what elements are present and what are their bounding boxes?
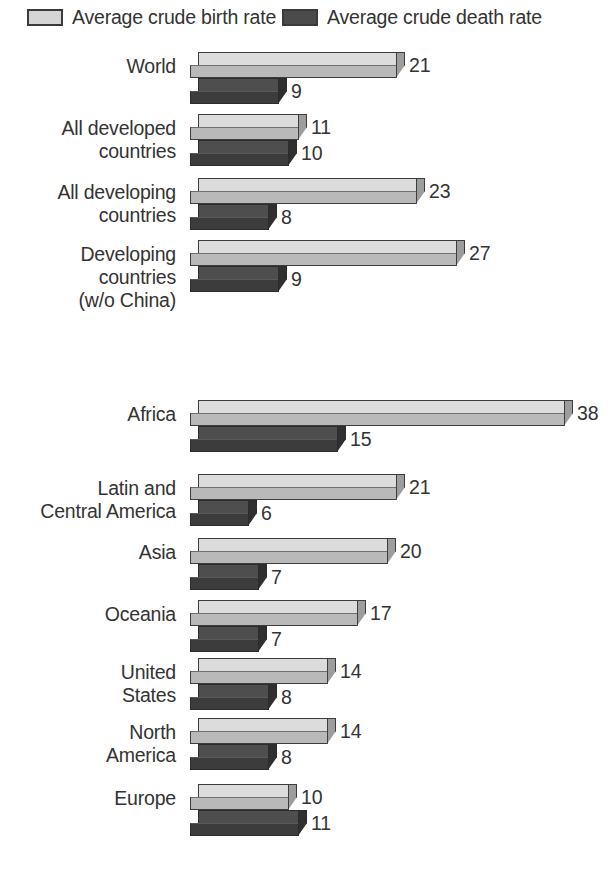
bar-top-face [198, 810, 307, 823]
legend-label-birth: Average crude birth rate [72, 6, 276, 29]
category-label: Europe [0, 787, 176, 810]
bar-birth-rate [190, 400, 573, 426]
bar-front-face [190, 413, 565, 426]
bar-value-death: 6 [261, 502, 272, 525]
chart-legend: Average crude birth rate Average crude d… [0, 6, 610, 34]
bar-end-cap [288, 784, 297, 810]
legend-swatch-birth-icon [27, 9, 63, 26]
category-label-line: Latin and [0, 477, 176, 500]
bar-front-face [190, 279, 279, 292]
bar-front-face [190, 639, 259, 652]
bar-end-cap [456, 240, 465, 266]
category-label-line: America [0, 744, 176, 767]
bar-top-face [198, 658, 336, 671]
category-label: All developedcountries [0, 117, 176, 163]
bar-top-face [198, 400, 573, 413]
bar-end-cap [396, 474, 405, 500]
category-label-line: States [0, 684, 176, 707]
bar-value-birth: 10 [301, 786, 322, 809]
category-label-line: All developing [0, 181, 176, 204]
bar-front-face [190, 253, 457, 266]
category-label: Latin andCentral America [0, 477, 176, 523]
bar-top-face [198, 684, 277, 697]
bar-top-face [198, 538, 396, 551]
category-label: Oceania [0, 603, 176, 626]
bar-death-rate [190, 564, 267, 590]
bar-front-face [190, 757, 269, 770]
bar-value-birth: 38 [577, 402, 598, 425]
bar-death-rate [190, 204, 277, 230]
category-label-line: countries [0, 140, 176, 163]
category-label-line: Africa [0, 403, 176, 426]
bar-end-cap [288, 140, 297, 166]
bar-front-face [190, 91, 279, 104]
bar-top-face [198, 140, 297, 153]
category-label-line: (w/o China) [0, 289, 176, 312]
bar-value-birth: 14 [340, 720, 361, 743]
bar-end-cap [327, 658, 336, 684]
bar-end-cap [268, 744, 277, 770]
bar-death-rate [190, 426, 346, 452]
bar-front-face [190, 191, 417, 204]
bar-top-face [198, 240, 465, 253]
bar-top-face [198, 744, 277, 757]
bar-top-face [198, 78, 287, 91]
bar-end-cap [357, 600, 366, 626]
bar-top-face [198, 564, 267, 577]
category-label: UnitedStates [0, 661, 176, 707]
bar-value-death: 8 [281, 746, 292, 769]
bar-value-death: 7 [271, 566, 282, 589]
bar-front-face [190, 487, 397, 500]
bar-value-birth: 21 [409, 54, 430, 77]
bar-value-death: 10 [301, 142, 322, 165]
bar-top-face [198, 626, 267, 639]
bar-death-rate [190, 500, 257, 526]
bar-value-death: 8 [281, 686, 292, 709]
bar-end-cap [298, 810, 307, 836]
bar-end-cap [327, 718, 336, 744]
category-label: Asia [0, 541, 176, 564]
bar-death-rate [190, 810, 307, 836]
category-label-line: countries [0, 204, 176, 227]
category-label: NorthAmerica [0, 721, 176, 767]
bar-death-rate [190, 744, 277, 770]
bar-value-birth: 17 [370, 602, 391, 625]
bar-front-face [190, 671, 328, 684]
legend-item-birth-rate: Average crude birth rate [27, 6, 276, 29]
bar-death-rate [190, 684, 277, 710]
bar-value-birth: 27 [469, 242, 490, 265]
bar-end-cap [258, 564, 267, 590]
bar-top-face [198, 114, 307, 127]
bar-end-cap [248, 500, 257, 526]
bar-front-face [190, 65, 397, 78]
bar-value-death: 15 [350, 428, 371, 451]
bar-front-face [190, 731, 328, 744]
bar-end-cap [416, 178, 425, 204]
bar-end-cap [278, 266, 287, 292]
bar-value-birth: 21 [409, 476, 430, 499]
bar-birth-rate [190, 178, 425, 204]
bar-top-face [198, 718, 336, 731]
category-label-line: World [0, 55, 176, 78]
bar-top-face [198, 474, 405, 487]
bar-front-face [190, 217, 269, 230]
bar-value-birth: 20 [400, 540, 421, 563]
bar-death-rate [190, 626, 267, 652]
bar-death-rate [190, 266, 287, 292]
category-label: Africa [0, 403, 176, 426]
category-label-line: Asia [0, 541, 176, 564]
legend-label-death: Average crude death rate [327, 6, 542, 29]
bar-front-face [190, 697, 269, 710]
bar-birth-rate [190, 600, 366, 626]
bar-birth-rate [190, 52, 405, 78]
bar-front-face [190, 439, 338, 452]
bar-front-face [190, 577, 259, 590]
bar-death-rate [190, 140, 297, 166]
bar-end-cap [268, 684, 277, 710]
bar-value-birth: 11 [311, 116, 331, 139]
bar-end-cap [278, 78, 287, 104]
bar-value-birth: 14 [340, 660, 361, 683]
category-label-line: All developed [0, 117, 176, 140]
bar-birth-rate [190, 784, 297, 810]
category-label: World [0, 55, 176, 78]
